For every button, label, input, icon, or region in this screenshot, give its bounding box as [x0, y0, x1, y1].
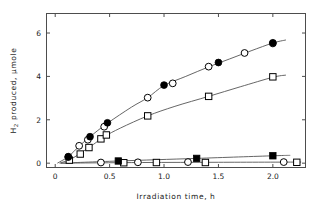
data-point-open-square-2: [86, 144, 92, 150]
data-point-open-circle-4: [144, 94, 151, 101]
chart-figure: 00.51.01.52.00246Irradiation time, hH2 p…: [0, 0, 323, 208]
data-point-open-square-4: [103, 132, 109, 138]
chart-canvas: 00.51.01.52.00246Irradiation time, hH2 p…: [0, 0, 323, 208]
curve-middle-curve: [60, 75, 286, 163]
data-point-open-square-1: [153, 159, 159, 165]
data-point-filled-circle-1: [87, 133, 94, 140]
data-point-open-circle-5: [169, 80, 176, 87]
y-tick-label-3: 6: [36, 29, 41, 38]
data-point-open-square-2: [202, 159, 208, 165]
y-axis-title-rest: produced, μmole: [9, 48, 18, 123]
y-tick-label-2: 4: [36, 72, 41, 81]
data-point-open-circle-3: [280, 159, 287, 166]
x-tick-label-1: 0.5: [104, 172, 116, 181]
data-point-open-square-1: [77, 151, 83, 157]
y-tick-label-1: 2: [36, 116, 41, 125]
data-point-filled-circle-0: [65, 153, 72, 160]
data-point-filled-square-1: [193, 155, 199, 161]
x-tick-label-0: 0: [53, 172, 58, 181]
data-point-filled-circle-5: [269, 39, 276, 46]
series-open-square-series: [66, 74, 276, 164]
x-tick-label-2: 1.0: [158, 172, 170, 181]
y-tick-label-0: 0: [36, 159, 41, 168]
data-point-filled-circle-2: [104, 119, 111, 126]
data-point-open-circle-1: [76, 142, 83, 149]
curve-layer: [57, 40, 301, 163]
y-axis-title: H2 produced, μmole: [9, 48, 19, 134]
data-point-filled-square-2: [270, 153, 276, 159]
data-point-open-circle-7: [241, 50, 248, 57]
data-point-open-circle-1: [135, 159, 142, 166]
x-tick-label-4: 2.0: [267, 172, 279, 181]
data-point-open-square-6: [205, 93, 211, 99]
data-point-open-circle-0: [98, 159, 105, 166]
data-point-open-square-7: [270, 74, 276, 80]
data-point-open-square-3: [294, 159, 300, 165]
data-point-filled-circle-4: [215, 59, 222, 66]
data-point-open-square-5: [145, 113, 151, 119]
curve-baseline-curve: [61, 162, 302, 163]
marker-layer: [65, 39, 300, 166]
x-tick-label-3: 1.5: [212, 172, 224, 181]
data-point-open-circle-2: [185, 159, 192, 166]
x-axis-title: Irradiation time, h: [137, 192, 216, 201]
data-point-open-circle-6: [205, 63, 212, 70]
data-point-filled-square-0: [115, 158, 121, 164]
data-point-filled-circle-3: [161, 82, 168, 89]
